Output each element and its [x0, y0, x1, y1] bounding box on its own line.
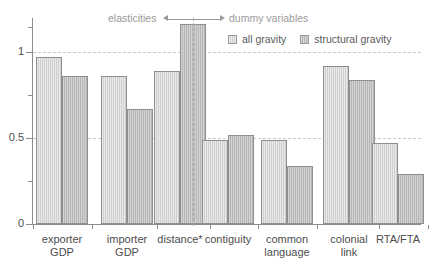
x-tick-1	[157, 225, 158, 229]
bar-common-language-structural-gravity	[287, 166, 313, 224]
x-tick-3	[258, 225, 259, 229]
x-tick-0	[92, 225, 93, 229]
x-tick-4	[317, 225, 318, 229]
plot-area	[33, 18, 421, 224]
y-tick-0-5	[26, 138, 33, 139]
x-axis-category-label-rta-fta: RTA/FTA	[358, 233, 433, 246]
bar-exporter-gdp-structural-gravity	[62, 76, 88, 224]
x-tick-6	[428, 225, 429, 229]
bar-common-language-all-gravity	[261, 140, 287, 224]
y-axis-label-0: 0	[6, 217, 24, 229]
y-tick-0	[26, 224, 33, 225]
bar-rta-fta-all-gravity	[372, 143, 398, 224]
bar-importer-gdp-all-gravity	[101, 76, 127, 224]
x-tick-2	[210, 225, 211, 229]
x-axis-line	[32, 224, 421, 225]
bar-contiguity-structural-gravity	[228, 135, 254, 224]
y-axis-label-1: 1	[6, 45, 24, 57]
elasticities-dummy-divider	[193, 18, 194, 226]
x-tick-5	[379, 225, 380, 229]
bar-contiguity-all-gravity	[202, 140, 228, 224]
bar-distance--all-gravity	[154, 71, 180, 224]
bar-exporter-gdp-all-gravity	[36, 57, 62, 224]
y-tick-1	[26, 52, 33, 53]
bar-colonial-link-all-gravity	[323, 66, 349, 224]
bar-rta-fta-structural-gravity	[398, 174, 424, 224]
y-axis-label-0-5: 0.5	[0, 131, 24, 143]
bar-importer-gdp-structural-gravity	[127, 109, 153, 224]
x-tick-origin	[33, 225, 34, 229]
